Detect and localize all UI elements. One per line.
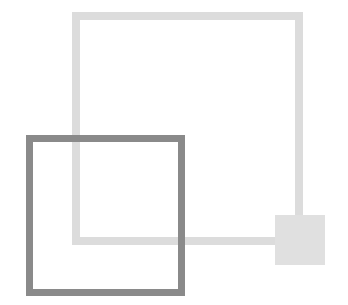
dark-outline-square (26, 135, 185, 296)
logo-diagram: Overlapping squares logo mark (0, 0, 348, 305)
small-filled-square (275, 215, 325, 265)
